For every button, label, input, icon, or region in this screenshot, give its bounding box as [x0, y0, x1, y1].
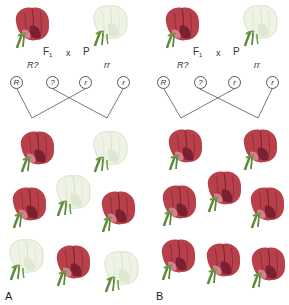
- panel-label-a: A: [5, 290, 12, 302]
- genotype-left: R?: [177, 61, 189, 70]
- allele-circle: r: [117, 76, 130, 89]
- allele-circle: r: [79, 76, 92, 89]
- offspring-white-flower: [99, 248, 141, 294]
- parent-white-flower: [238, 2, 280, 48]
- offspring-white-flower: [88, 128, 130, 174]
- offspring-white-flower: [4, 236, 46, 282]
- cross-symbol: x: [216, 49, 221, 58]
- allele-circle: r: [228, 76, 241, 89]
- allele-circle: r: [266, 76, 279, 89]
- offspring-red-flower: [51, 242, 93, 288]
- allele-circle: R: [10, 76, 23, 89]
- offspring-white-flower: [51, 172, 93, 218]
- panel-b: F1 x P R? rr R ? r r B: [150, 0, 289, 305]
- offspring-red-flower: [7, 184, 49, 230]
- panel-a: F1 x P R? rr R ? r r A: [0, 0, 145, 305]
- offspring-red-flower: [246, 244, 288, 290]
- genotype-left: R?: [27, 61, 39, 70]
- offspring-red-flower: [157, 182, 199, 228]
- offspring-red-flower: [156, 236, 198, 282]
- offspring-red-flower: [245, 184, 287, 230]
- parent-red-flower: [10, 4, 52, 50]
- offspring-red-flower: [163, 126, 205, 172]
- allele-circle: ?: [46, 76, 59, 89]
- f1-label: F1: [193, 47, 202, 58]
- cross-symbol: x: [66, 49, 71, 58]
- p-label: P: [233, 47, 240, 57]
- parent-white-flower: [88, 2, 130, 48]
- allele-circle: R: [157, 76, 170, 89]
- p-label: P: [83, 47, 90, 57]
- genotype-right: rr: [254, 61, 260, 70]
- genotype-right: rr: [104, 61, 110, 70]
- parent-red-flower: [160, 4, 202, 50]
- offspring-red-flower: [238, 126, 280, 172]
- panel-label-b: B: [156, 290, 163, 302]
- allele-circle: ?: [194, 76, 207, 89]
- offspring-red-flower: [96, 188, 138, 234]
- offspring-red-flower: [201, 240, 243, 286]
- offspring-red-flower: [15, 128, 57, 174]
- offspring-red-flower: [202, 168, 244, 214]
- f1-label: F1: [43, 47, 52, 58]
